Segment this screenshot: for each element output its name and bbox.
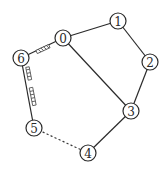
- edge-3-4: [88, 111, 131, 153]
- graph-diagram: 0 1 2 3 4 5 6: [0, 0, 167, 170]
- edge-0-1: [63, 21, 118, 38]
- edge-4-5-dotted: [34, 128, 88, 153]
- node-0: 0: [55, 30, 71, 46]
- node-5: 5: [26, 120, 42, 136]
- node-1-label: 1: [114, 15, 122, 29]
- edge-5-6-marker-1: [26, 67, 32, 80]
- node-5-label: 5: [30, 122, 38, 136]
- node-6-label: 6: [17, 52, 25, 66]
- node-6: 6: [13, 50, 29, 66]
- edge-0-3: [63, 38, 131, 111]
- edge-6-0-marker: [36, 44, 50, 53]
- edge-5-6-marker-2: [29, 87, 36, 105]
- node-4: 4: [80, 145, 96, 161]
- node-1: 1: [110, 13, 126, 29]
- node-0-label: 0: [59, 32, 67, 46]
- node-3-label: 3: [127, 105, 135, 119]
- node-2: 2: [142, 54, 158, 70]
- node-4-label: 4: [84, 147, 92, 161]
- node-3: 3: [123, 103, 139, 119]
- node-2-label: 2: [146, 56, 154, 70]
